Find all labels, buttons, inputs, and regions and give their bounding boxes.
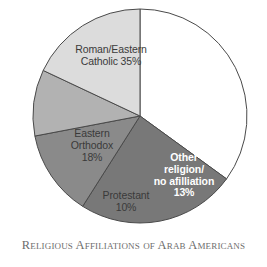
slice-label-protestant: Protestant 10% (86, 190, 166, 214)
chart-caption: Religious Affiliations of Arab Americans (0, 238, 267, 253)
slice-label-roman-eastern-catholic: Roman/Eastern Catholic 35% (58, 44, 164, 68)
slice-label-eastern-orthodox: Eastern Orthodox 18% (52, 128, 132, 163)
pie-chart-figure: Roman/Eastern Catholic 35% Muslim 24% Ot… (0, 0, 267, 267)
slice-label-muslim: Muslim 24% (176, 99, 250, 123)
